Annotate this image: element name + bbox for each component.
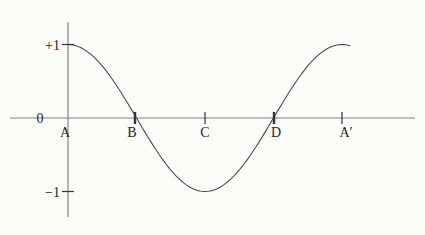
- x-point-label-1: B: [127, 125, 136, 140]
- x-point-label-2: C: [200, 125, 209, 140]
- cosine-curve-figure: +1−1ABCDA′0: [0, 0, 425, 235]
- x-point-label-0: A: [60, 125, 71, 140]
- y-tick-label-0: +1: [45, 38, 60, 53]
- graph-svg: +1−1ABCDA′0: [0, 0, 425, 235]
- y-tick-label-1: −1: [45, 185, 60, 200]
- origin-label: 0: [37, 111, 44, 126]
- x-point-label-4: A′: [339, 125, 352, 140]
- x-point-label-3: D: [271, 125, 281, 140]
